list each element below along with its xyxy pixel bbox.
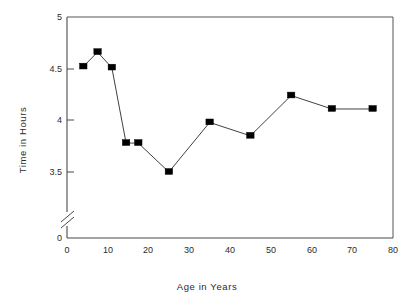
x-tick-label-60: 60 [307,245,317,255]
y-tick-label-4.5: 4.5 [49,64,62,74]
x-tick-label-30: 30 [184,245,194,255]
data-point-marker [328,106,335,112]
chart-container: 5 4.5 4 3.5 0 0 10 20 30 40 50 60 70 80 … [0,0,415,305]
plot-frame [67,17,393,238]
y-tick-label-3.5: 3.5 [49,167,62,177]
y-tick-label-4: 4 [57,115,62,125]
data-point-marker [94,49,101,55]
data-point-marker [287,92,294,98]
data-point-marker [165,169,172,175]
y-axis-break-icon [61,211,74,228]
x-tick-label-40: 40 [225,245,235,255]
data-point-marker [108,64,115,70]
y-axis-title: Time in Hours [17,107,28,174]
y-tick-label-5: 5 [57,12,62,22]
x-tick-label-10: 10 [103,245,113,255]
x-tick-label-70: 70 [347,245,357,255]
data-series-group [80,49,377,175]
series-line [83,52,372,172]
data-point-marker [135,140,142,146]
data-point-marker [206,119,213,125]
line-chart: 5 4.5 4 3.5 0 0 10 20 30 40 50 60 70 80 … [0,0,415,305]
x-tick-label-80: 80 [388,245,398,255]
y-axis [61,17,74,238]
data-point-marker [247,132,254,138]
x-axis-title: Age in Years [177,281,238,292]
data-point-marker [369,106,376,112]
x-tick-label-20: 20 [143,245,153,255]
data-point-marker [80,63,87,69]
x-tick-label-0: 0 [64,245,69,255]
x-tick-label-50: 50 [266,245,276,255]
y-tick-label-0: 0 [57,233,62,243]
data-point-marker [122,140,129,146]
